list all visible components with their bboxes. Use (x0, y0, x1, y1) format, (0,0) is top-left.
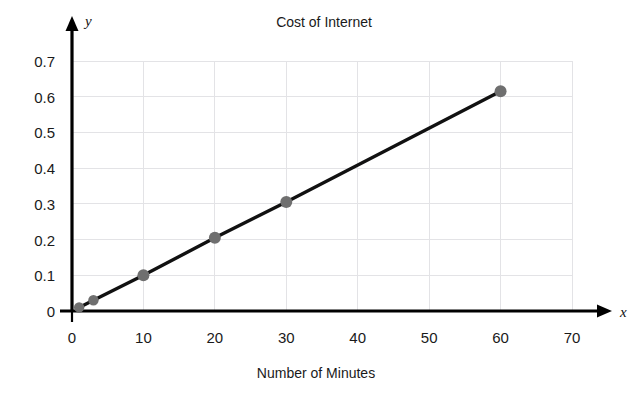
data-point-marker (209, 232, 221, 244)
y-axis-variable-label: y (83, 13, 92, 29)
x-axis-tick-label: 70 (564, 329, 581, 346)
y-axis-tick-label: 0.7 (34, 53, 55, 70)
x-axis-tick-label: 40 (349, 329, 366, 346)
chart-title: Cost of Internet (276, 14, 372, 30)
y-axis-tick-label: 0 (47, 303, 55, 320)
y-axis-tick-label: 0.3 (34, 196, 55, 213)
x-axis-variable-label: x (619, 304, 627, 320)
x-axis-tick-label: 50 (421, 329, 438, 346)
x-axis-tick-label: 20 (207, 329, 224, 346)
data-point-marker (280, 196, 292, 208)
x-axis-tick-label: 60 (492, 329, 509, 346)
data-point-marker (88, 295, 98, 305)
data-point-marker (137, 269, 149, 281)
x-axis-tick-label: 30 (278, 329, 295, 346)
y-axis-tick-label: 0.6 (34, 89, 55, 106)
data-point-marker (495, 85, 507, 97)
x-axis-title: Number of Minutes (257, 365, 375, 381)
data-point-marker (74, 302, 84, 312)
y-axis-tick-label: 0.5 (34, 124, 55, 141)
x-axis-tick-label: 10 (135, 329, 152, 346)
cost-of-internet-line-chart: Cost of Internet y x 00.10.20.30.40.50.6… (0, 0, 638, 399)
x-axis-tick-label: 0 (68, 329, 76, 346)
y-axis-tick-label: 0.2 (34, 232, 55, 249)
chart-background (0, 0, 638, 399)
chart-container: Cost of Internet y x 00.10.20.30.40.50.6… (0, 0, 638, 399)
y-axis-tick-label: 0.4 (34, 160, 55, 177)
y-axis-tick-label: 0.1 (34, 267, 55, 284)
